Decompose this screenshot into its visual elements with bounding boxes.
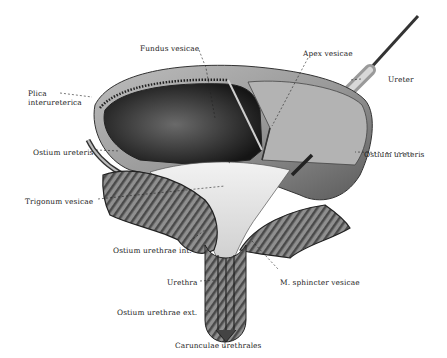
label-ureter: Ureter xyxy=(388,75,414,84)
bladder-illustration xyxy=(0,0,447,358)
label-ostium-ureteris-left: Ostium ureteris xyxy=(33,148,94,157)
label-ostium-ureteris-right: Ostium ureteris xyxy=(364,150,425,159)
label-carunculae-urethrales: Carunculae urethrales xyxy=(175,341,261,350)
label-ostium-urethrae-ext: Ostium urethrae ext. xyxy=(117,308,197,317)
bladder-interior xyxy=(104,84,262,165)
label-plica-line1: Plica xyxy=(28,89,47,98)
label-fundus-vesicae: Fundus vesicae xyxy=(140,44,199,53)
label-sphincter-vesicae: M. sphincter vesicae xyxy=(280,278,360,287)
label-ostium-urethrae-int: Ostium urethrae int. xyxy=(113,246,192,255)
label-urethra: Urethra xyxy=(167,278,198,287)
label-plica-line2: interureterica xyxy=(28,98,82,107)
label-apex-vesicae: Apex vesicae xyxy=(303,49,353,58)
ureter-catheter xyxy=(340,16,418,100)
anatomical-figure: Fundus vesicae Apex vesicae Ureter Plica… xyxy=(0,0,447,358)
label-trigonum-vesicae: Trigonum vesicae xyxy=(25,197,93,206)
